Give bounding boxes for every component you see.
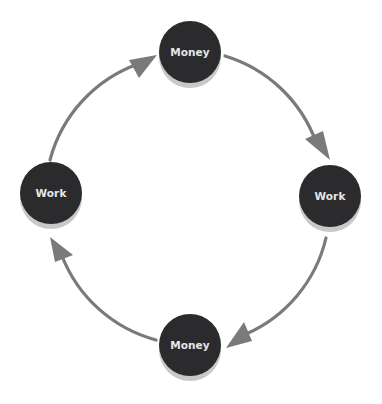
cycle-diagram: Money Work Money Work <box>0 0 382 404</box>
arrow-bottom-to-left <box>50 237 156 340</box>
arrowhead-icon <box>226 322 252 348</box>
arrow-right-to-bottom <box>226 238 326 348</box>
arrow-left-to-top <box>50 55 157 160</box>
node-bottom-money: Money <box>159 314 221 376</box>
node-left-work: Work <box>20 162 82 224</box>
node-label: Work <box>315 190 346 202</box>
node-label: Money <box>170 339 210 351</box>
node-right-work: Work <box>299 165 361 227</box>
arrowhead-icon <box>129 55 157 78</box>
node-label: Money <box>170 46 210 58</box>
arrow-top-to-right <box>225 56 330 160</box>
arrowhead-icon <box>50 237 73 262</box>
node-label: Work <box>36 187 67 199</box>
arrowhead-icon <box>305 131 330 160</box>
node-top-money: Money <box>159 21 221 83</box>
